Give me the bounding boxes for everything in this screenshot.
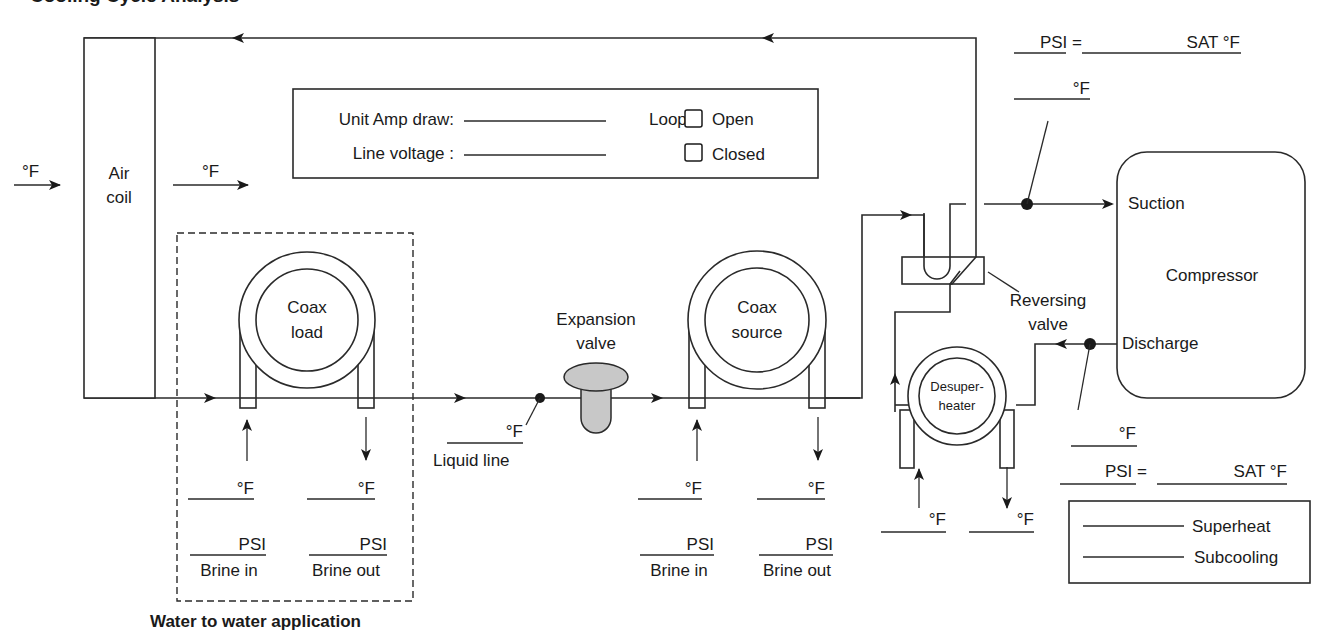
svg-text:Desuper-: Desuper- — [930, 379, 983, 394]
svg-text:Liquid line: Liquid line — [433, 451, 510, 470]
air-in-temp: °F — [14, 162, 60, 185]
desuperheater: Desuper- heater — [900, 347, 1014, 468]
svg-text:Open: Open — [712, 110, 754, 129]
svg-text:PSI =: PSI = — [1040, 33, 1082, 52]
coax-load: Coax load — [239, 252, 375, 408]
svg-text:Water to water application: Water to water application — [150, 612, 361, 631]
svg-text:°F: °F — [237, 479, 254, 498]
svg-text:Coax: Coax — [287, 298, 327, 317]
svg-text:°F: °F — [506, 422, 523, 441]
results-box: Superheat Subcooling — [1069, 501, 1310, 583]
svg-text:Reversing: Reversing — [1010, 291, 1087, 310]
svg-text:°F: °F — [22, 162, 39, 181]
svg-text:°F: °F — [1073, 79, 1090, 98]
coax-load-brine-out: °F PSI Brine out — [307, 417, 387, 580]
refrigeration-cycle-diagram: Cooling Cycle Analysis Air coil °F °F Un… — [0, 0, 1326, 634]
svg-text:Unit Amp draw:: Unit Amp draw: — [339, 110, 454, 129]
svg-text:°F: °F — [1017, 510, 1034, 529]
svg-text:SAT °F: SAT °F — [1234, 462, 1287, 481]
coax-load-brine-in: °F PSI Brine in — [188, 420, 266, 580]
discharge-readings: °F PSI = SAT °F — [1060, 424, 1287, 484]
liquid-line-sensor: °F Liquid line — [433, 393, 545, 470]
svg-text:Cooling Cycle Analysis: Cooling Cycle Analysis — [30, 0, 239, 6]
air-coil: Air coil — [84, 38, 155, 398]
svg-text:coil: coil — [106, 188, 132, 207]
svg-text:PSI: PSI — [360, 535, 387, 554]
desuperheater-in-temp: °F — [881, 469, 946, 532]
svg-text:SAT °F: SAT °F — [1187, 33, 1240, 52]
page-title: Cooling Cycle Analysis — [30, 0, 239, 6]
svg-text:Discharge: Discharge — [1122, 334, 1199, 353]
svg-text:Brine out: Brine out — [763, 561, 831, 580]
loop-closed-checkbox[interactable]: Closed — [685, 144, 765, 164]
svg-text:PSI: PSI — [687, 535, 714, 554]
svg-text:°F: °F — [202, 162, 219, 181]
svg-text:Closed: Closed — [712, 145, 765, 164]
svg-text:Subcooling: Subcooling — [1194, 548, 1278, 567]
svg-text:load: load — [291, 323, 323, 342]
loop-open-checkbox[interactable]: Open — [685, 110, 754, 129]
svg-text:valve: valve — [1028, 315, 1068, 334]
svg-text:Suction: Suction — [1128, 194, 1185, 213]
svg-text:Compressor: Compressor — [1166, 266, 1259, 285]
svg-text:PSI =: PSI = — [1105, 462, 1147, 481]
desuperheater-out-temp: °F — [969, 467, 1034, 532]
coax-source-brine-out: °F PSI Brine out — [757, 417, 833, 580]
coax-source-brine-in: °F PSI Brine in — [638, 420, 714, 580]
svg-text:valve: valve — [576, 334, 616, 353]
svg-text:Expansion: Expansion — [556, 310, 635, 329]
svg-text:Superheat: Superheat — [1192, 517, 1271, 536]
compressor: Suction Compressor Discharge — [1117, 152, 1305, 398]
svg-text:Brine out: Brine out — [312, 561, 380, 580]
svg-text:°F: °F — [685, 479, 702, 498]
svg-text:PSI: PSI — [239, 535, 266, 554]
svg-text:°F: °F — [1119, 424, 1136, 443]
svg-text:Line voltage :: Line voltage : — [353, 144, 454, 163]
info-box: Unit Amp draw: Line voltage : Loop: Open… — [293, 89, 818, 178]
air-out-temp: °F — [173, 162, 248, 185]
svg-text:°F: °F — [929, 510, 946, 529]
svg-text:Air: Air — [109, 164, 130, 183]
svg-text:Brine in: Brine in — [650, 561, 708, 580]
svg-text:°F: °F — [358, 479, 375, 498]
svg-text:°F: °F — [808, 479, 825, 498]
svg-text:Coax: Coax — [737, 298, 777, 317]
coax-source: Coax source — [688, 251, 826, 408]
svg-text:source: source — [731, 323, 782, 342]
expansion-valve: Expansion valve — [556, 310, 635, 433]
svg-text:PSI: PSI — [806, 535, 833, 554]
svg-text:heater: heater — [939, 398, 977, 413]
svg-text:Brine in: Brine in — [200, 561, 258, 580]
